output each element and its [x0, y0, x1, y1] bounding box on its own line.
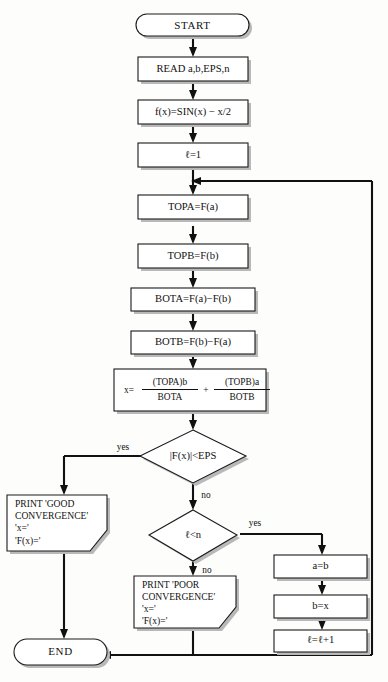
read-label: READ a,b,EPS,n [157, 63, 231, 74]
arrowhead-assign-a [318, 545, 326, 555]
arrowhead-bota [189, 278, 197, 288]
node-read[interactable]: READ a,b,EPS,n [138, 57, 251, 84]
branch-label-n-yes: yes [249, 518, 262, 528]
node-topb[interactable]: TOPB=F(b) [138, 244, 251, 271]
print-poor-line-3: 'x=' [142, 603, 156, 614]
print-good-line-2: CONVERGENCE' [15, 510, 88, 521]
arrowhead-print-good [60, 485, 68, 495]
print-good-line-4: 'F(x)=' [15, 535, 41, 547]
node-start[interactable]: START [136, 14, 252, 39]
node-botb[interactable]: BOTB=F(b)−F(a) [131, 331, 258, 357]
node-increment[interactable]: ℓ=ℓ+1 [274, 630, 370, 655]
decision-eps-label: |F(x)|<EPS [170, 450, 217, 462]
formula-operator: + [203, 385, 208, 395]
formula-lead: x= [124, 385, 134, 395]
branch-label-eps-no: no [201, 490, 211, 500]
decision-n-label: ℓ<n [185, 529, 202, 540]
arrowhead-formula [189, 359, 197, 369]
start-label: START [174, 19, 210, 31]
node-assign-b[interactable]: b=x [274, 595, 370, 621]
bota-label: BOTA=F(a)−F(b) [155, 293, 231, 305]
print-poor-line-2: CONVERGENCE' [142, 591, 215, 602]
assign-a-label: a=b [313, 560, 329, 571]
node-decision-eps[interactable]: |F(x)|<EPS yes no [117, 430, 249, 500]
formula-denominator-1: BOTA [158, 392, 183, 402]
node-topa[interactable]: TOPA=F(a) [138, 195, 251, 222]
arrowhead-read [189, 47, 197, 57]
formula-numerator-1: (TOPA)b [153, 377, 188, 388]
arrowhead-print-poor [189, 566, 197, 576]
node-end[interactable]: END [14, 639, 110, 668]
arrowhead-linit [189, 133, 197, 143]
print-poor-line-1: PRINT 'POOR [142, 579, 200, 590]
formula-numerator-2: (TOPB)a [225, 377, 260, 388]
node-l-init[interactable]: ℓ=1 [138, 143, 251, 170]
assign-b-label: b=x [312, 600, 329, 611]
print-poor-line-4: 'F(x)=' [142, 615, 168, 627]
branch-label-n-no: no [202, 565, 212, 575]
topa-label: TOPA=F(a) [168, 201, 219, 213]
arrowhead-increment [318, 620, 326, 630]
arrowhead-botb [189, 321, 197, 331]
node-print-good[interactable]: PRINT 'GOOD CONVERGENCE' 'x=' 'F(x)=' [7, 495, 110, 554]
print-good-line-1: PRINT 'GOOD [15, 498, 74, 509]
flowchart-page: START READ a,b,EPS,n f(x)=SIN(x) − x/2 ℓ… [0, 0, 388, 682]
formula-denominator-2: BOTB [229, 392, 254, 402]
fx-label: f(x)=SIN(x) − x/2 [155, 106, 231, 118]
arrowhead-topb [189, 234, 197, 244]
node-formula[interactable]: x= (TOPA)b BOTA + (TOPB)a BOTB [114, 369, 270, 414]
increment-label: ℓ=ℓ+1 [307, 634, 334, 645]
arrowhead-fx [189, 90, 197, 100]
node-assign-a[interactable]: a=b [274, 555, 370, 581]
node-print-poor[interactable]: PRINT 'POOR CONVERGENCE' 'x=' 'F(x)=' [134, 576, 239, 631]
linit-label: ℓ=1 [185, 149, 201, 160]
end-label: END [48, 645, 72, 657]
botb-label: BOTB=F(b)−F(a) [155, 336, 232, 348]
node-fx-definition[interactable]: f(x)=SIN(x) − x/2 [138, 100, 251, 127]
node-bota[interactable]: BOTA=F(a)−F(b) [131, 288, 258, 314]
arrowhead-decision-eps [189, 420, 197, 430]
topb-label: TOPB=F(b) [167, 250, 219, 262]
flowchart-canvas: START READ a,b,EPS,n f(x)=SIN(x) − x/2 ℓ… [0, 0, 388, 682]
branch-label-eps-yes: yes [117, 442, 130, 452]
arrowhead-assign-b [318, 585, 326, 595]
arrowhead-topa [189, 185, 197, 195]
node-decision-n[interactable]: ℓ<n yes no [149, 510, 262, 575]
print-good-line-3: 'x=' [15, 522, 29, 533]
arrowhead-decision-n [189, 500, 197, 510]
arrowhead-end-top [60, 629, 68, 639]
